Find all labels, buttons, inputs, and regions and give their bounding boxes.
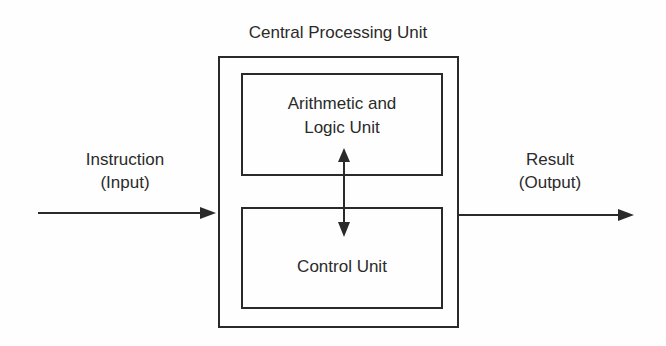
bidirectional-arrow: [338, 148, 350, 237]
arrows-layer: [0, 0, 666, 346]
output-arrow: [459, 209, 634, 221]
input-arrow: [38, 207, 216, 219]
